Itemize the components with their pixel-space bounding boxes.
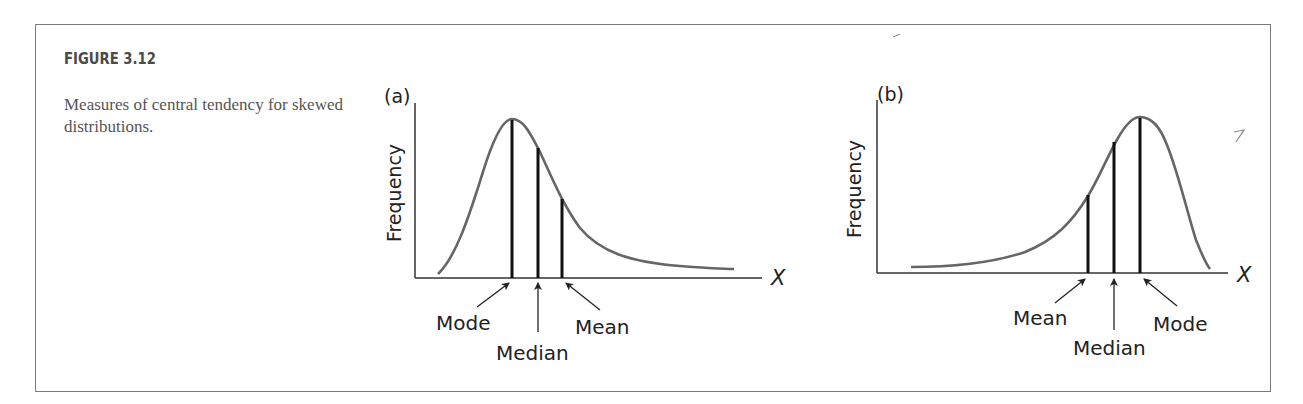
- panel-b: (b) Frequency X Mean Median Mode: [843, 83, 1252, 360]
- panel-b-mean-arrow: [1055, 279, 1085, 303]
- figure-plots: (a) Frequency X Mode Median Mean (b) Fre…: [0, 0, 1303, 404]
- panel-a-mean-arrow: [566, 283, 600, 310]
- panel-b-mode-arrow: [1144, 279, 1177, 306]
- panel-b-mean-label: Mean: [1013, 306, 1068, 330]
- panel-b-label: (b): [877, 83, 904, 105]
- panel-a-distribution-curve: [438, 119, 734, 274]
- panel-b-distribution-curve: [911, 117, 1210, 269]
- stray-pen-mark-7: [1234, 130, 1244, 142]
- panel-a-mean-label: Mean: [575, 315, 630, 339]
- stray-pen-mark: [893, 34, 900, 37]
- panel-b-y-axis-label: Frequency: [843, 140, 865, 238]
- panel-b-mode-label: Mode: [1153, 312, 1208, 336]
- panel-a-mode-arrow: [477, 283, 509, 307]
- panel-a: (a) Frequency X Mode Median Mean: [383, 85, 786, 365]
- panel-a-label: (a): [384, 85, 410, 107]
- panel-a-mode-label: Mode: [436, 311, 491, 335]
- panel-a-x-axis-label: X: [770, 266, 786, 290]
- panel-a-y-axis-label: Frequency: [383, 144, 405, 242]
- panel-b-median-label: Median: [1073, 336, 1146, 360]
- panel-a-median-label: Median: [496, 341, 569, 365]
- panel-b-x-axis-label: X: [1236, 263, 1252, 287]
